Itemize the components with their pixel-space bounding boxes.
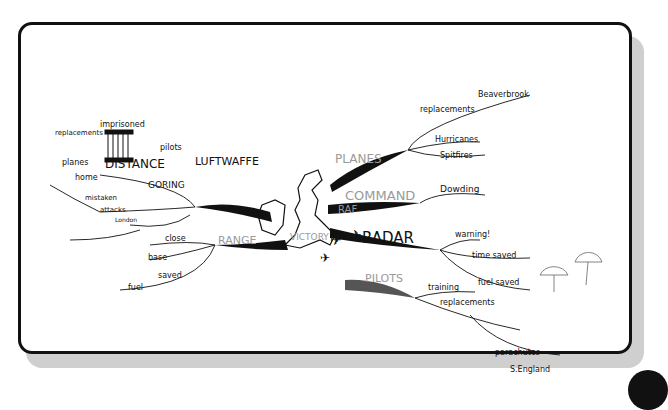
svg-text:Dowding: Dowding <box>440 184 479 194</box>
svg-text:✈: ✈ <box>320 251 330 265</box>
svg-text:replacements: replacements <box>55 129 103 137</box>
branch-radar: RADAR <box>362 229 414 247</box>
svg-text:replacements: replacements <box>440 298 495 307</box>
svg-text:fuel: fuel <box>128 283 143 292</box>
svg-text:replacements: replacements <box>420 105 475 114</box>
branch-luftwaffe: LUFTWAFFE <box>195 155 259 168</box>
svg-text:mistaken: mistaken <box>85 194 117 202</box>
svg-text:GORING: GORING <box>148 180 185 190</box>
svg-text:fuel saved: fuel saved <box>478 278 519 287</box>
svg-text:planes: planes <box>62 158 88 167</box>
svg-text:warning!: warning! <box>455 230 490 239</box>
svg-text:Hurricanes: Hurricanes <box>435 135 478 144</box>
svg-text:✈: ✈ <box>350 227 362 243</box>
svg-text:Spitfires: Spitfires <box>440 151 473 160</box>
center-label: RAF <box>338 204 357 215</box>
branch-pilots: PILOTS <box>365 272 403 285</box>
svg-text:pilots: pilots <box>160 143 182 152</box>
branch-command: COMMAND <box>345 188 415 203</box>
svg-text:close: close <box>165 234 186 243</box>
svg-text:parachutes: parachutes <box>495 348 540 357</box>
svg-text:home: home <box>75 173 98 182</box>
parachute-icon <box>540 252 602 292</box>
svg-text:Beaverbrook: Beaverbrook <box>478 90 529 99</box>
svg-text:attacks: attacks <box>100 206 126 214</box>
branch-range: RANGE <box>218 234 256 247</box>
svg-text:S.England: S.England <box>510 365 550 374</box>
svg-text:base: base <box>148 253 167 262</box>
svg-text:✈: ✈ <box>330 232 342 248</box>
svg-text:imprisoned: imprisoned <box>100 120 145 129</box>
svg-text:London: London <box>115 216 137 223</box>
svg-text:time saved: time saved <box>472 251 516 260</box>
svg-text:saved: saved <box>158 271 182 280</box>
svg-text:DISTANCE: DISTANCE <box>105 157 165 171</box>
center-sublabel: VICTORY <box>290 232 329 242</box>
branch-planes: PLANES <box>335 152 382 166</box>
svg-text:training: training <box>428 283 459 292</box>
